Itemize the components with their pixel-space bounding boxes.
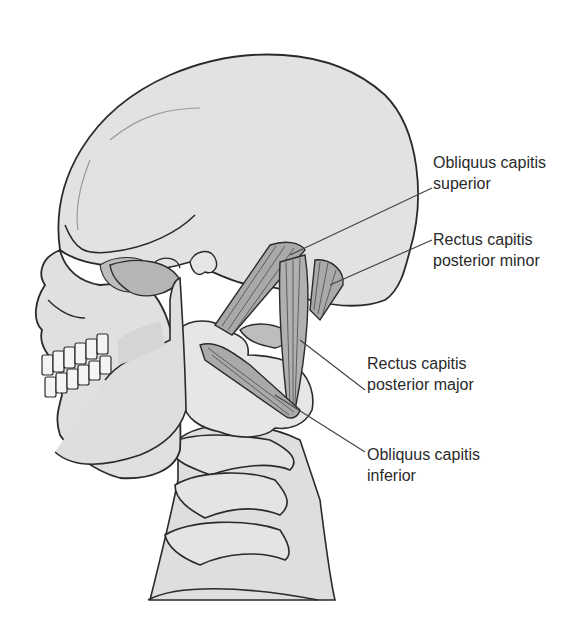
- label-line-1: Rectus capitis: [433, 229, 540, 250]
- label-line-2: inferior: [367, 465, 480, 486]
- skull-neck-illustration: [0, 0, 588, 624]
- label-obliquus-capitis-superior: Obliquus capitis superior: [433, 152, 546, 194]
- label-line-1: Rectus capitis: [367, 353, 474, 374]
- label-line-2: superior: [433, 173, 546, 194]
- anatomy-figure: Obliquus capitis superior Rectus capitis…: [0, 0, 588, 624]
- label-line-1: Obliquus capitis: [367, 444, 480, 465]
- label-line-2: posterior minor: [433, 250, 540, 271]
- label-line-1: Obliquus capitis: [433, 152, 546, 173]
- leader-rectus-major: [300, 340, 365, 390]
- label-line-2: posterior major: [367, 374, 474, 395]
- label-obliquus-capitis-inferior: Obliquus capitis inferior: [367, 444, 480, 486]
- label-rectus-capitis-posterior-minor: Rectus capitis posterior minor: [433, 229, 540, 271]
- label-rectus-capitis-posterior-major: Rectus capitis posterior major: [367, 353, 474, 395]
